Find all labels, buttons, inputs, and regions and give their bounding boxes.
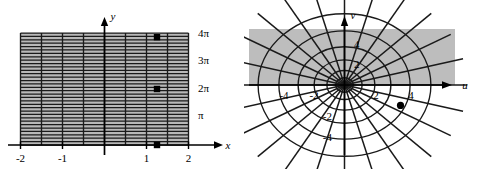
x-tick-label-2: 2 bbox=[186, 152, 192, 164]
y-tick-label-2pi: 2π bbox=[198, 82, 210, 94]
u-tick-label-2: 2 bbox=[373, 89, 379, 101]
u-tick-label-neg2: -2 bbox=[309, 89, 318, 101]
u-axis-label: u bbox=[462, 79, 468, 91]
uv-plane-panel: -4 -2 2 4 4 2 -2 -4 u v bbox=[244, 0, 487, 169]
u-tick-label-4: 4 bbox=[408, 89, 414, 101]
u-tick-label-neg4: -4 bbox=[279, 89, 289, 101]
xy-plane-svg: -2 -1 1 2 π 2π 3π 4π x y bbox=[0, 0, 244, 169]
y-tick-label-4pi: 4π bbox=[198, 27, 210, 39]
x-axis-label: x bbox=[225, 139, 231, 151]
x-tick-label-neg1: -1 bbox=[58, 152, 67, 164]
marked-points-uv bbox=[397, 102, 404, 109]
y-axis-label: y bbox=[110, 10, 116, 22]
uv-plane-svg: -4 -2 2 4 4 2 -2 -4 u v bbox=[244, 0, 487, 169]
v-tick-label-4: 4 bbox=[354, 38, 360, 50]
x-tick-label-neg2: -2 bbox=[16, 152, 25, 164]
xy-plane-panel: -2 -1 1 2 π 2π 3π 4π x y bbox=[0, 0, 244, 169]
v-tick-label-neg4: -4 bbox=[323, 131, 333, 143]
exponential-map-figure: -2 -1 1 2 π 2π 3π 4π x y bbox=[0, 0, 487, 169]
x-tick-label-1: 1 bbox=[144, 152, 150, 164]
y-tick-label-3pi: 3π bbox=[198, 54, 210, 66]
v-tick-label-2: 2 bbox=[354, 58, 360, 70]
v-axis-label: v bbox=[351, 9, 356, 21]
y-tick-label-pi: π bbox=[198, 109, 204, 121]
v-tick-label-neg2: -2 bbox=[323, 110, 332, 122]
